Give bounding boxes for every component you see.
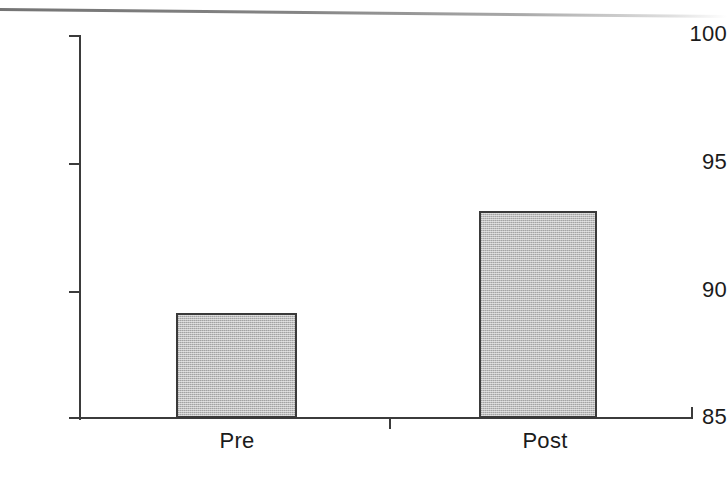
y-axis-tick-90 bbox=[69, 291, 80, 293]
y-axis-tick-label-95: 95 bbox=[663, 151, 727, 173]
bar-post bbox=[479, 211, 597, 418]
x-axis-label-post: Post bbox=[495, 430, 595, 452]
y-axis-tick-85 bbox=[69, 417, 80, 419]
x-axis-line bbox=[79, 417, 693, 419]
y-axis-line bbox=[79, 35, 81, 420]
y-axis-tick-100 bbox=[69, 35, 80, 37]
bar-pre bbox=[176, 313, 297, 418]
x-axis-tick-separator bbox=[389, 418, 391, 429]
plot-area: 100 95 90 85 Pre Post bbox=[0, 0, 727, 477]
y-axis-tick-label-85: 85 bbox=[663, 406, 727, 428]
x-axis-label-pre: Pre bbox=[187, 430, 287, 452]
y-axis-tick-95 bbox=[69, 163, 80, 165]
x-axis-end-tick bbox=[691, 407, 693, 418]
bar-chart-figure: 100 95 90 85 Pre Post bbox=[0, 0, 727, 477]
y-axis-tick-label-90: 90 bbox=[663, 279, 727, 301]
y-axis-tick-label-100: 100 bbox=[663, 23, 727, 45]
